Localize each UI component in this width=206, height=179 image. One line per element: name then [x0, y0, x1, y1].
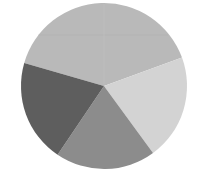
pie-chart	[0, 0, 206, 179]
